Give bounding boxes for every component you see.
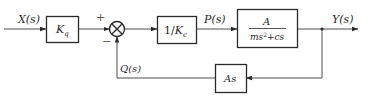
plant-block: A ms2+cs	[238, 10, 298, 48]
p-signal-label: P(s)	[203, 13, 226, 26]
feedback-as-label: As	[223, 73, 236, 84]
plant-den-tail: +cs	[267, 32, 285, 42]
kc-sub: c	[183, 31, 187, 39]
summing-junction	[110, 22, 125, 37]
block-diagram: X(s) Kq + − 1/Kc P(s) A ms2+cs Y(s	[0, 0, 376, 97]
svg-text:ms2+cs: ms2+cs	[250, 31, 285, 43]
feedback-as-block: As	[216, 65, 247, 93]
minus-sign: −	[102, 35, 111, 48]
gain-kq-block: Kq	[47, 17, 79, 43]
input-signal-label: X(s)	[17, 13, 40, 26]
kc-prefix: 1/	[164, 24, 175, 37]
gain-kq-sub: q	[64, 30, 69, 38]
plus-sign: +	[96, 11, 105, 24]
plant-den-main: ms	[250, 32, 264, 42]
q-signal-label: Q(s)	[120, 63, 141, 74]
inverse-gain-kc-block: 1/Kc	[158, 17, 197, 44]
plant-numerator: A	[262, 16, 270, 27]
output-signal-label: Y(s)	[332, 13, 354, 26]
